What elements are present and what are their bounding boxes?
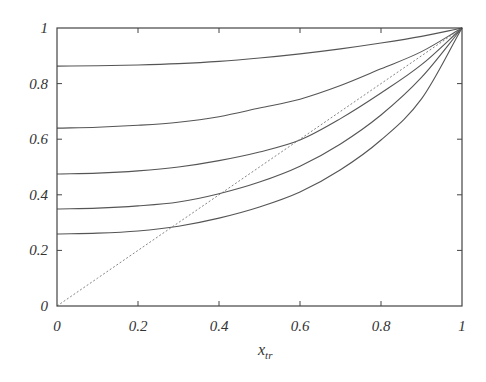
x-axis: 00.20.40.60.81 [53, 28, 466, 334]
series-curve-5 [57, 28, 462, 234]
y-tick-label: 0.8 [29, 76, 48, 92]
x-tick-label: 0.2 [129, 318, 148, 334]
x-tick-label: 0.4 [210, 318, 229, 334]
y-tick-label: 0.4 [29, 187, 48, 203]
chart: 00.20.40.60.81 00.20.40.60.81 xtr [0, 0, 486, 382]
y-tick-label: 0 [41, 298, 49, 314]
series-curve-2 [57, 28, 462, 128]
series-curve-4 [57, 28, 462, 209]
x-tick-label: 1 [458, 318, 466, 334]
x-tick-label: 0.8 [372, 318, 391, 334]
curves [57, 28, 462, 306]
y-tick-label: 0.2 [29, 242, 48, 258]
y-tick-label: 0.6 [29, 131, 48, 147]
y-tick-label: 1 [41, 20, 49, 36]
y-axis: 00.20.40.60.81 [29, 20, 462, 314]
series-curve-3 [57, 28, 462, 174]
x-tick-label: 0.6 [291, 318, 310, 334]
x-axis-label: xtr [257, 341, 273, 361]
x-tick-label: 0 [53, 318, 61, 334]
diagonal-reference-line [57, 28, 462, 306]
